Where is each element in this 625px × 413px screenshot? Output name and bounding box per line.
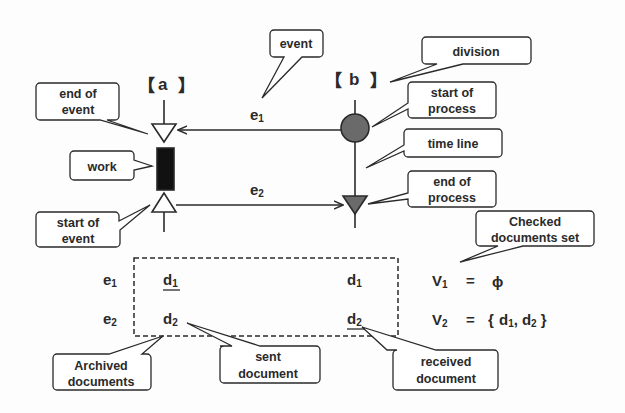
lane-b-header: 【 b 】 bbox=[325, 70, 387, 91]
table-row: e2 d2 d2 bbox=[103, 310, 364, 329]
work-block bbox=[157, 148, 174, 190]
svg-text:【: 【 bbox=[325, 71, 342, 91]
svg-text:event: event bbox=[280, 37, 313, 51]
callout-start-of-event: start of event bbox=[36, 205, 150, 247]
svg-text:d2: d2 bbox=[163, 310, 178, 328]
svg-text:documents: documents bbox=[68, 375, 135, 389]
callout-division: division bbox=[390, 37, 531, 82]
callout-work: work bbox=[70, 151, 152, 180]
start-of-process-marker bbox=[341, 114, 369, 142]
svg-text:event: event bbox=[62, 232, 95, 246]
svg-text:start of: start of bbox=[57, 216, 100, 230]
svg-text:document: document bbox=[238, 367, 299, 381]
lane-a-header: 【 a 】 bbox=[138, 75, 195, 96]
svg-text:end of: end of bbox=[433, 175, 471, 189]
callout-end-of-event: end of event bbox=[36, 83, 148, 134]
table-row: e1 d1 d1 bbox=[103, 271, 362, 290]
svg-text:start of: start of bbox=[431, 86, 474, 100]
svg-text:=: = bbox=[466, 272, 475, 289]
svg-text:process: process bbox=[428, 191, 476, 205]
svg-text:】: 】 bbox=[178, 76, 195, 96]
svg-text:received: received bbox=[421, 355, 472, 369]
svg-text:V1: V1 bbox=[432, 272, 448, 290]
document-flow-diagram: 【 a 】 【 b 】 e1 e2 event division bbox=[0, 0, 625, 413]
event-arrow-e2: e2 bbox=[176, 181, 343, 205]
callout-archived-documents: Archived documents bbox=[53, 336, 163, 390]
svg-text:V2: V2 bbox=[432, 311, 448, 329]
svg-text:e2: e2 bbox=[103, 310, 117, 328]
lane-b-timeline bbox=[341, 100, 369, 228]
svg-text:Archived: Archived bbox=[74, 359, 128, 373]
svg-text:Checked: Checked bbox=[509, 215, 561, 229]
svg-text:】: 】 bbox=[370, 71, 387, 91]
end-of-event-marker bbox=[152, 124, 176, 142]
svg-text:end of: end of bbox=[59, 87, 97, 101]
svg-text:a: a bbox=[158, 75, 168, 94]
svg-text:d1: d1 bbox=[163, 271, 178, 289]
svg-text:d2: d2 bbox=[347, 310, 362, 328]
callout-time-line: time line bbox=[366, 129, 502, 168]
callout-sent-document: sent document bbox=[187, 323, 320, 383]
svg-text:e1: e1 bbox=[250, 106, 264, 124]
svg-text:e2: e2 bbox=[250, 181, 264, 199]
callout-received-document: received document bbox=[362, 327, 498, 390]
svg-text:【: 【 bbox=[138, 76, 155, 96]
set-v2: V2 = { d1,d2} bbox=[432, 311, 547, 329]
callout-end-of-process: end of process bbox=[368, 171, 496, 207]
svg-text:process: process bbox=[428, 102, 476, 116]
callout-checked-documents-set: Checked documents set bbox=[460, 211, 594, 262]
svg-text:=: = bbox=[466, 311, 475, 328]
svg-text:ϕ: ϕ bbox=[492, 273, 503, 290]
svg-text:division: division bbox=[452, 45, 499, 59]
svg-text:e1: e1 bbox=[103, 271, 117, 289]
lane-a-timeline bbox=[152, 100, 176, 232]
svg-text:event: event bbox=[62, 103, 95, 117]
svg-text:{: { bbox=[488, 311, 494, 328]
callout-start-of-process: start of process bbox=[372, 82, 496, 127]
svg-text:d1,d2}: d1,d2} bbox=[499, 311, 547, 329]
end-of-process-marker bbox=[343, 196, 367, 214]
start-of-event-marker bbox=[152, 193, 176, 212]
svg-text:b: b bbox=[349, 70, 359, 89]
svg-text:document: document bbox=[416, 372, 477, 386]
svg-text:d1: d1 bbox=[347, 271, 362, 289]
svg-text:sent: sent bbox=[255, 350, 282, 364]
svg-text:documents set: documents set bbox=[491, 231, 580, 245]
callout-event: event bbox=[262, 30, 323, 98]
svg-text:work: work bbox=[86, 160, 116, 174]
set-v1: V1 = ϕ bbox=[432, 272, 503, 290]
event-arrow-e1: e1 bbox=[178, 106, 341, 130]
svg-text:time line: time line bbox=[428, 137, 479, 151]
